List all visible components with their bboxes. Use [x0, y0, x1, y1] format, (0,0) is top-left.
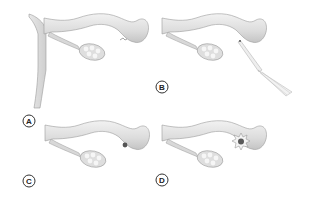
uterine-tube-and-ovary: [162, 121, 267, 170]
svg-text:A: A: [26, 117, 32, 126]
label-d: D: [156, 174, 168, 186]
panel-d: D: [156, 121, 267, 186]
label-b: B: [156, 81, 168, 93]
svg-text:B: B: [159, 83, 165, 92]
panel-b: B: [156, 14, 292, 96]
label-c: C: [23, 175, 35, 187]
svg-text:D: D: [159, 176, 165, 185]
uterine-tube-and-ovary: [44, 14, 149, 63]
panel-c: C: [23, 121, 150, 187]
panel-a: A: [23, 14, 149, 127]
label-a: A: [23, 115, 35, 127]
fimbrial-closure: [120, 38, 127, 40]
instrument-beam: [238, 40, 292, 96]
svg-text:C: C: [26, 177, 32, 186]
figure-canvas: A B C D: [0, 0, 309, 201]
uterine-tube-and-ovary: [45, 121, 150, 170]
occluded-spot: [123, 143, 128, 148]
uterine-wall: [29, 14, 46, 108]
